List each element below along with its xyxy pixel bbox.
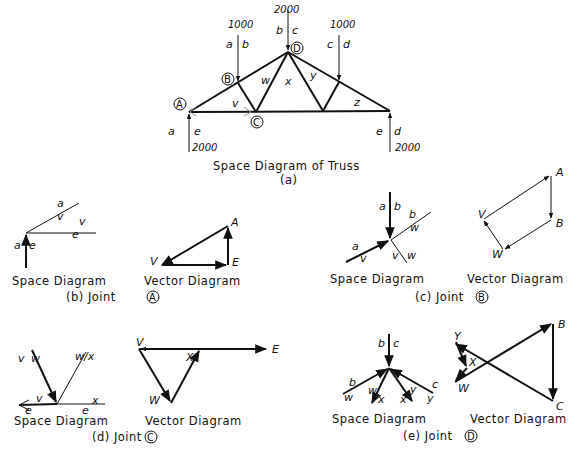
svg-text:w: w — [368, 384, 377, 397]
reaction-left-label: 2000 — [192, 142, 217, 153]
svg-text:a: a — [168, 125, 175, 138]
load-right-label: 1000 — [330, 19, 355, 30]
svg-text:V: V — [136, 336, 145, 349]
svg-text:v: v — [360, 252, 367, 265]
svg-text:a: a — [379, 200, 386, 213]
svg-text:W: W — [458, 382, 470, 395]
svg-text:x: x — [399, 393, 407, 406]
svg-text:v: v — [18, 352, 25, 365]
svg-text:Space Diagram: Space Diagram — [330, 272, 425, 286]
svg-text:b: b — [276, 24, 283, 37]
svg-text:X: X — [185, 351, 194, 364]
svg-text:c: c — [327, 38, 333, 51]
svg-text:V: V — [478, 208, 487, 221]
svg-text:V: V — [150, 255, 159, 268]
svg-text:v: v — [232, 97, 239, 110]
panel-joint-d: b c b w w x x y c y Y X W B C Space Diag… — [332, 318, 567, 443]
svg-text:w: w — [407, 249, 416, 262]
svg-text:v: v — [57, 210, 64, 223]
svg-text:Vector Diagram: Vector Diagram — [470, 412, 567, 426]
joint-a-marker: A — [176, 99, 183, 110]
svg-text:(c) Joint: (c) Joint — [415, 290, 464, 304]
svg-text:c: c — [393, 337, 399, 350]
truss-figure: 1000 2000 1000 2000 2000 a b b c c d a e… — [0, 0, 581, 457]
svg-text:Vector Diagram: Vector Diagram — [467, 272, 564, 286]
svg-text:A: A — [149, 292, 156, 303]
svg-text:w: w — [344, 391, 353, 404]
svg-text:a: a — [57, 197, 64, 210]
main-truss: 1000 2000 1000 2000 2000 a b b c c d a e… — [168, 4, 420, 187]
svg-text:v: v — [392, 249, 399, 262]
svg-text:y: y — [409, 383, 417, 396]
svg-text:E: E — [232, 256, 239, 269]
svg-text:b: b — [349, 376, 356, 389]
svg-text:Space Diagram: Space Diagram — [332, 412, 427, 426]
svg-text:x: x — [91, 394, 99, 407]
svg-text:w: w — [31, 352, 40, 365]
svg-text:Space Diagram: Space Diagram — [12, 274, 107, 288]
svg-text:(d) Joint: (d) Joint — [92, 430, 142, 444]
svg-text:y: y — [309, 69, 317, 82]
svg-text:d: d — [394, 125, 402, 138]
svg-text:w: w — [410, 221, 419, 234]
svg-text:e: e — [29, 239, 36, 252]
svg-text:(e) Joint: (e) Joint — [403, 429, 453, 443]
svg-text:Y: Y — [454, 330, 462, 343]
panel-joint-b: a b b w a v v w A B V W Space Diagram Ve… — [330, 166, 564, 304]
svg-text:w/x: w/x — [75, 350, 95, 363]
svg-text:v: v — [79, 215, 86, 228]
svg-text:a: a — [226, 38, 233, 51]
joint-d-marker: D — [293, 43, 301, 54]
svg-text:Vector Diagram: Vector Diagram — [145, 414, 242, 428]
svg-text:B: B — [558, 318, 566, 331]
svg-text:(b) Joint: (b) Joint — [66, 290, 116, 304]
panel-joint-c: v w w/x v e e x V E X W Space Diagram Ve… — [14, 336, 279, 444]
svg-text:W: W — [492, 248, 504, 261]
svg-text:b: b — [394, 200, 401, 213]
svg-text:b: b — [378, 337, 385, 350]
svg-text:W: W — [149, 394, 161, 407]
svg-text:y: y — [426, 392, 434, 405]
svg-text:A: A — [555, 166, 564, 179]
svg-text:B: B — [478, 292, 485, 303]
svg-text:x: x — [284, 75, 292, 88]
svg-text:e: e — [376, 125, 383, 138]
svg-text:C: C — [147, 432, 154, 443]
svg-text:b: b — [242, 38, 249, 51]
main-caption: Space Diagram of Truss — [213, 159, 360, 173]
main-sublabel: (a) — [280, 173, 298, 187]
reaction-right-label: 2000 — [395, 142, 420, 153]
svg-text:X: X — [468, 356, 477, 369]
svg-text:A: A — [230, 216, 239, 229]
svg-text:v: v — [36, 392, 43, 405]
svg-text:w: w — [261, 74, 270, 87]
joint-c-marker: C — [253, 117, 260, 128]
svg-text:c: c — [292, 24, 298, 37]
svg-text:c: c — [432, 378, 438, 391]
svg-text:E: E — [272, 343, 279, 356]
load-apex-label: 2000 — [274, 4, 299, 15]
svg-text:a: a — [352, 240, 359, 253]
svg-text:a: a — [14, 239, 21, 252]
svg-text:e: e — [194, 125, 201, 138]
svg-text:Vector Diagram: Vector Diagram — [144, 274, 241, 288]
svg-text:e: e — [72, 228, 79, 241]
panel-joint-a: a v v e a e A E V Space Diagram Vector D… — [12, 197, 241, 304]
svg-text:D: D — [467, 431, 475, 442]
svg-text:Space Diagram: Space Diagram — [14, 414, 109, 428]
svg-text:z: z — [353, 96, 360, 109]
svg-text:b: b — [409, 208, 416, 221]
joint-b-marker: B — [224, 74, 231, 85]
svg-text:B: B — [556, 217, 564, 230]
load-left-label: 1000 — [228, 19, 253, 30]
svg-text:x: x — [377, 393, 385, 406]
svg-text:d: d — [343, 38, 351, 51]
